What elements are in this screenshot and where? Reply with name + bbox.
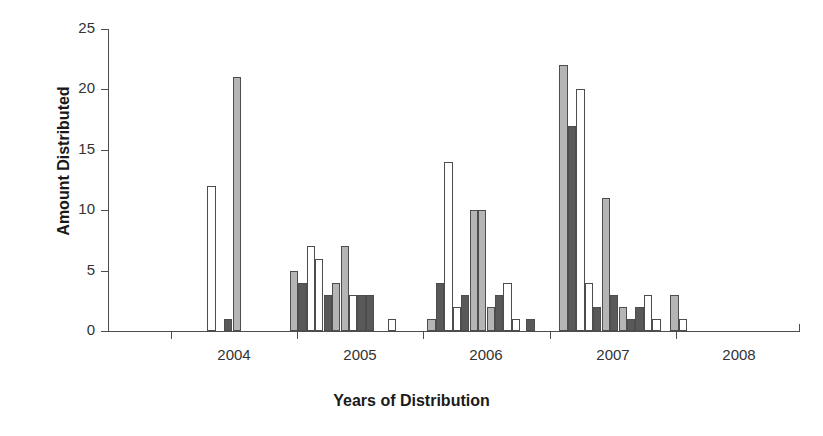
x-tick-mark xyxy=(676,331,677,339)
bar xyxy=(427,319,435,331)
bar xyxy=(627,319,635,331)
bar xyxy=(679,319,687,331)
bar xyxy=(453,307,461,331)
bar xyxy=(324,295,332,331)
bar xyxy=(470,210,478,331)
bar xyxy=(224,319,232,331)
bar xyxy=(503,283,511,331)
bar xyxy=(388,319,396,331)
x-axis-line xyxy=(108,331,800,332)
bar xyxy=(461,295,469,331)
bar xyxy=(619,307,627,331)
bar xyxy=(332,283,340,331)
bar xyxy=(366,295,374,331)
y-tick-mark xyxy=(101,331,109,332)
bar xyxy=(298,283,306,331)
bar xyxy=(568,126,576,331)
bar xyxy=(644,295,652,331)
y-tick-label: 25 xyxy=(45,19,95,36)
bar xyxy=(526,319,534,331)
y-tick-label: 10 xyxy=(45,200,95,217)
x-tick-mark xyxy=(423,331,424,339)
x-tick-label: 2006 xyxy=(441,346,531,363)
bar xyxy=(602,198,610,331)
bar xyxy=(478,210,486,331)
x-tick-mark xyxy=(297,331,298,339)
x-tick-label: 2008 xyxy=(694,346,784,363)
bar xyxy=(233,77,241,331)
x-tick-mark xyxy=(171,331,172,339)
x-tick-mark xyxy=(550,331,551,339)
bar xyxy=(593,307,601,331)
bar xyxy=(341,246,349,331)
y-tick-label: 20 xyxy=(45,79,95,96)
bar xyxy=(487,307,495,331)
bars-layer xyxy=(108,29,800,331)
bar xyxy=(495,295,503,331)
x-tick-label: 2007 xyxy=(568,346,658,363)
bar xyxy=(559,65,567,331)
bar xyxy=(290,271,298,331)
y-tick-label: 15 xyxy=(45,140,95,157)
bar xyxy=(585,283,593,331)
bar xyxy=(349,295,357,331)
x-axis-title: Years of Distribution xyxy=(0,392,823,410)
bar xyxy=(315,259,323,331)
bar xyxy=(635,307,643,331)
x-tick-label: 2004 xyxy=(189,346,279,363)
x-tick-label: 2005 xyxy=(315,346,405,363)
bar xyxy=(436,283,444,331)
bar xyxy=(357,295,365,331)
y-tick-label: 0 xyxy=(45,321,95,338)
bar-chart: Amount Distributed 0510152025 2004200520… xyxy=(0,0,823,436)
bar xyxy=(307,246,315,331)
bar xyxy=(652,319,660,331)
bar xyxy=(512,319,520,331)
y-tick-label: 5 xyxy=(45,261,95,278)
bar xyxy=(444,162,452,331)
bar xyxy=(576,89,584,331)
bar xyxy=(610,295,618,331)
bar xyxy=(670,295,678,331)
bar xyxy=(207,186,215,331)
